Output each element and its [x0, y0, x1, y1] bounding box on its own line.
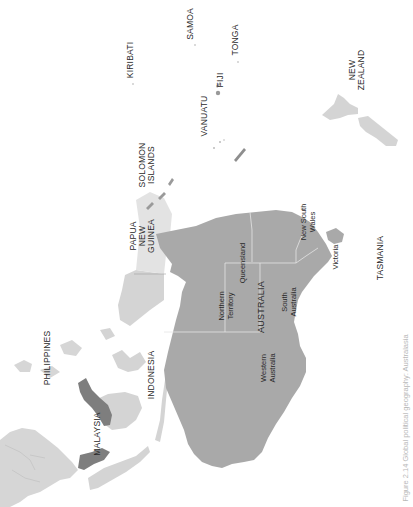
new-zealand-south [358, 116, 398, 146]
label-samoa: SAMOA [186, 8, 195, 40]
label-victoria: Victoria [332, 245, 341, 270]
label-new-south-wales: New South Wales [300, 204, 317, 241]
label-australia: AUSTRALIA [257, 281, 266, 333]
label-western-australia: Western Australia [260, 353, 277, 382]
label-new-zealand: NEW ZEALAND [348, 50, 366, 91]
fiji-island [216, 91, 220, 95]
label-papua-new-guinea: PAPUA NEW GUINEA [129, 219, 156, 253]
figure-caption: Figure 2.14 Global political geography: … [401, 334, 410, 501]
label-malaysia: MALAYSIA [93, 412, 102, 456]
vanuatu-islets [213, 147, 215, 149]
vanuatu-islets [223, 139, 225, 141]
label-fiji: FIJI [216, 73, 225, 88]
label-tasmania: TASMANIA [376, 236, 385, 280]
label-indonesia: INDONESIA [147, 351, 156, 400]
new-guinea-west [118, 270, 164, 326]
new-zealand-north [322, 94, 358, 120]
label-tonga: TONGA [231, 24, 240, 55]
tonga-dot [237, 61, 239, 63]
vanuatu-islets [219, 141, 221, 143]
asia-mainland [0, 428, 78, 507]
label-vanuatu: VANUATU [200, 96, 209, 137]
new-caledonia [234, 148, 246, 162]
label-kiribati: KIRIBATI [126, 42, 135, 78]
label-queensland: Queensland [239, 243, 248, 283]
kiribati-dot [132, 83, 134, 85]
samoa-dot [194, 44, 196, 46]
label-northern-territory: Northern Territory [218, 291, 235, 320]
tasmania [326, 228, 344, 244]
sulawesi [100, 328, 146, 372]
label-south-australia: South Australia [281, 287, 298, 316]
label-solomon-islands: SOLOMON ISLANDS [138, 143, 156, 188]
label-philippines: PHILIPPINES [43, 331, 52, 386]
